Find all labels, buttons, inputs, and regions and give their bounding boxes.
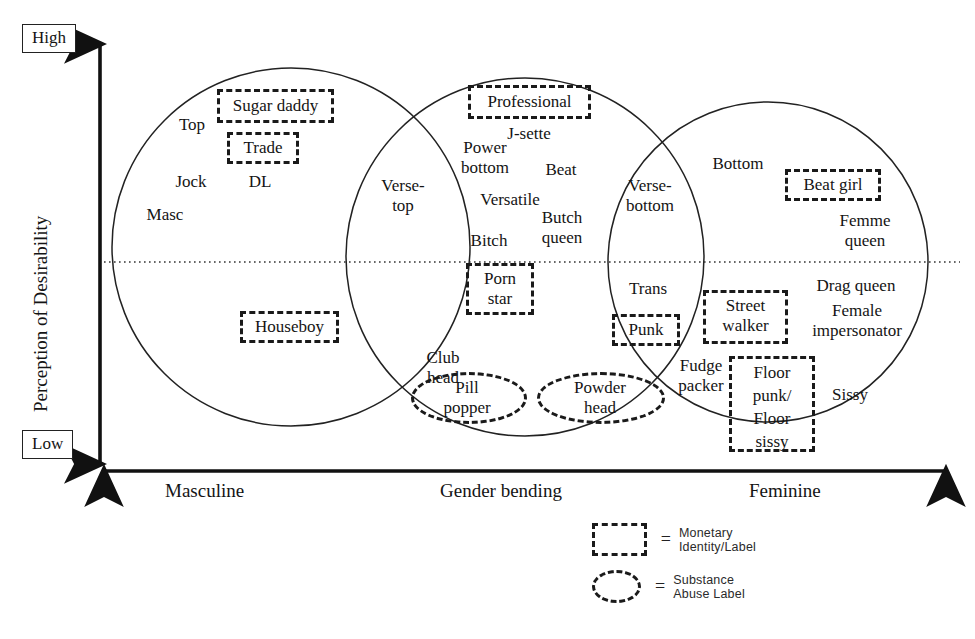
- y-axis-title: Perception of Desirability: [30, 216, 52, 412]
- legend-row-substance: = Substance Abuse Label: [592, 570, 759, 603]
- legend-key-dashed-ellipse-icon: [592, 570, 641, 603]
- label-top: Top: [167, 115, 217, 135]
- label-fudge-packer: Fudge packer: [668, 356, 734, 396]
- label-jock: Jock: [165, 172, 217, 192]
- label-verse-top: Verse- top: [375, 176, 431, 216]
- label-street-walker: Street walker: [703, 296, 788, 336]
- label-dl: DL: [243, 172, 277, 192]
- label-drag-queen: Drag queen: [802, 276, 910, 296]
- legend-label-monetary: Monetary Identity/Label: [679, 526, 775, 554]
- label-verse-bottom: Verse- bottom: [617, 176, 683, 216]
- label-pill-popper: Pill popper: [419, 378, 515, 418]
- axis-low-label: Low: [32, 434, 63, 453]
- label-punk: Punk: [612, 320, 680, 340]
- legend-label-substance: Substance Abuse Label: [673, 573, 759, 601]
- label-floor-punk-floor-sissy: Floor punk/ Floor sissy: [729, 361, 815, 453]
- label-professional: Professional: [468, 92, 591, 112]
- legend-key-dashed-rectangle-icon: [592, 523, 647, 556]
- x-axis-tick-feminine: Feminine: [749, 480, 821, 502]
- x-axis-tick-gender-bending: Gender bending: [440, 480, 562, 502]
- label-sissy: Sissy: [822, 385, 878, 405]
- axis-low-box: Low: [22, 430, 73, 459]
- label-powder-head: Powder head: [545, 378, 655, 418]
- label-masc: Masc: [130, 205, 200, 225]
- legend-row-monetary: = Monetary Identity/Label: [592, 523, 775, 556]
- legend-equals-substance: =: [655, 576, 665, 597]
- label-porn-star: Porn star: [466, 269, 534, 309]
- label-trans: Trans: [618, 279, 678, 299]
- label-versatile: Versatile: [470, 190, 550, 210]
- legend-equals-monetary: =: [661, 529, 671, 550]
- label-beat-girl: Beat girl: [785, 175, 881, 195]
- label-houseboy: Houseboy: [240, 317, 339, 337]
- axis-high-box: High: [22, 24, 76, 53]
- x-axis-tick-masculine: Masculine: [165, 480, 244, 502]
- label-sugar-daddy: Sugar daddy: [217, 96, 334, 116]
- label-trade: Trade: [227, 138, 299, 158]
- label-bitch: Bitch: [461, 231, 517, 251]
- label-butch-queen: Butch queen: [531, 208, 593, 248]
- label-female-impersonator: Female impersonator: [792, 301, 922, 341]
- diagram-canvas: High Low Perception of Desirability Masc…: [0, 0, 975, 639]
- label-beat: Beat: [535, 160, 587, 180]
- label-bottom: Bottom: [702, 154, 774, 174]
- axis-high-label: High: [32, 28, 66, 47]
- label-femme-queen: Femme queen: [827, 211, 903, 251]
- label-power-bottom: Power bottom: [452, 138, 518, 178]
